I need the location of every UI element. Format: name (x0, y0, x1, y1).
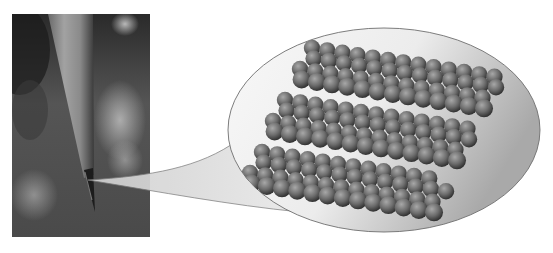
carbon-atom (425, 203, 443, 221)
carbon-atom (369, 83, 387, 101)
carbon-atom (438, 183, 454, 199)
carbon-atom (353, 80, 371, 98)
carbon-atom (410, 201, 428, 219)
carbon-atom (414, 90, 432, 108)
carbon-atom (281, 125, 299, 143)
carbon-atom (387, 142, 405, 160)
carbon-atom (296, 127, 314, 145)
carbon-atom (379, 196, 397, 214)
carbon-atom (488, 79, 504, 95)
carbon-atom (338, 78, 356, 96)
carbon-atom (357, 137, 375, 155)
carbon-atom (308, 73, 326, 91)
carbon-atom (258, 177, 276, 195)
carbon-atom (319, 187, 337, 205)
carbon-atom (364, 194, 382, 212)
carbon-atom (429, 92, 447, 110)
carbon-atom (311, 130, 329, 148)
carbon-atom (445, 95, 463, 113)
carbon-atom (384, 85, 402, 103)
carbon-atom (349, 191, 367, 209)
carbon-atom (448, 151, 466, 169)
carbon-atom (372, 139, 390, 157)
carbon-atom (266, 123, 284, 141)
carbon-atom (326, 132, 344, 150)
carbon-atom (418, 147, 436, 165)
graphite-diagram (0, 0, 553, 253)
carbon-atom (433, 149, 451, 167)
carbon-atom (303, 184, 321, 202)
carbon-atom (395, 199, 413, 217)
carbon-atom (288, 182, 306, 200)
magnification-bubble (228, 28, 540, 232)
carbon-atom (461, 131, 477, 147)
carbon-atom (460, 97, 478, 115)
carbon-atom (402, 144, 420, 162)
carbon-atom (293, 71, 311, 89)
carbon-atom (475, 99, 493, 117)
carbon-atom (273, 179, 291, 197)
carbon-atom (399, 87, 417, 105)
carbon-atom (323, 75, 341, 93)
carbon-atom (342, 135, 360, 153)
carbon-atom (334, 189, 352, 207)
pencil-photo (0, 5, 150, 237)
